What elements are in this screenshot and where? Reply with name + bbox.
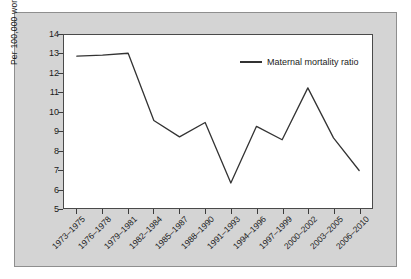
legend-label: Maternal mortality ratio xyxy=(267,57,359,67)
plot-area: Maternal mortality ratio xyxy=(63,34,373,209)
y-axis-tick-label: 9 xyxy=(45,126,59,136)
y-axis-tick-labels: 567891011121314 xyxy=(41,34,59,209)
y-axis-title: Per 100,000 women xyxy=(9,0,19,65)
chart-figure-panel: Per 100,000 women 567891011121314 Matern… xyxy=(14,12,397,267)
chart-legend: Maternal mortality ratio xyxy=(240,57,359,67)
x-axis-tick-labels: 1973–19751976–19781979–19811982–19841985… xyxy=(63,214,393,268)
y-axis-tick-label: 5 xyxy=(45,204,59,214)
y-axis-tick-label: 14 xyxy=(45,29,59,39)
y-axis-tick-label: 10 xyxy=(45,107,59,117)
y-axis-tick-label: 11 xyxy=(45,87,59,97)
legend-line-swatch xyxy=(240,61,262,62)
y-axis-tick-label: 13 xyxy=(45,48,59,58)
y-axis-tick-label: 8 xyxy=(45,146,59,156)
maternal-mortality-line xyxy=(77,53,359,183)
y-axis-tick-label: 6 xyxy=(45,185,59,195)
y-axis-tick-label: 7 xyxy=(45,165,59,175)
y-axis-tick-label: 12 xyxy=(45,68,59,78)
